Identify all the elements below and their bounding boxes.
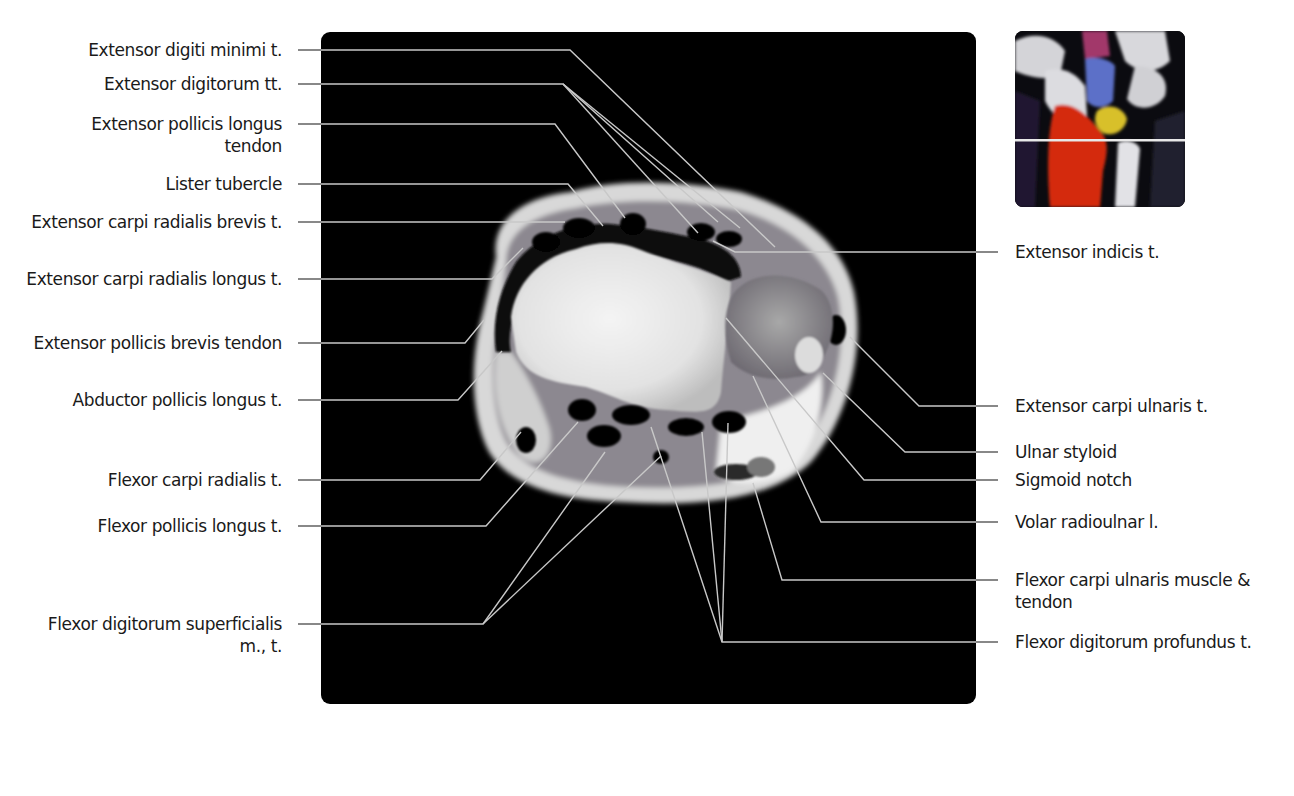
label-flexor-carpi-radialis: Flexor carpi radialis t. bbox=[108, 469, 282, 491]
label-flexor-pollicis-longus: Flexor pollicis longus t. bbox=[98, 515, 282, 537]
label-extensor-carpi-ulnaris: Extensor carpi ulnaris t. bbox=[1015, 395, 1208, 417]
slice-level-line bbox=[1015, 139, 1185, 142]
label-extensor-carpi-radialis-brevis: Extensor carpi radialis brevis t. bbox=[31, 211, 282, 233]
label-sigmoid-notch: Sigmoid notch bbox=[1015, 469, 1132, 491]
label-line-1: Extensor pollicis longus bbox=[91, 113, 282, 135]
label-line-1: Flexor digitorum superficialis bbox=[48, 613, 282, 635]
label-flexor-digitorum-superficialis: Flexor digitorum superficialis m., t. bbox=[48, 613, 282, 657]
label-extensor-indicis: Extensor indicis t. bbox=[1015, 241, 1159, 263]
label-abductor-pollicis-longus: Abductor pollicis longus t. bbox=[73, 389, 282, 411]
label-volar-radioulnar-ligament: Volar radioulnar l. bbox=[1015, 511, 1158, 533]
label-extensor-digitorum: Extensor digitorum tt. bbox=[104, 73, 282, 95]
label-flexor-digitorum-profundus: Flexor digitorum profundus t. bbox=[1015, 631, 1251, 653]
mri-image-panel bbox=[321, 32, 976, 704]
label-line-2: tendon bbox=[91, 135, 282, 157]
axial-wrist-mri bbox=[321, 32, 976, 704]
label-flexor-carpi-ulnaris: Flexor carpi ulnaris muscle & tendon bbox=[1015, 569, 1250, 613]
label-extensor-pollicis-longus: Extensor pollicis longus tendon bbox=[91, 113, 282, 157]
label-extensor-pollicis-brevis: Extensor pollicis brevis tendon bbox=[34, 332, 282, 354]
label-ulnar-styloid: Ulnar styloid bbox=[1015, 441, 1117, 463]
label-line-2: tendon bbox=[1015, 591, 1250, 613]
label-lister-tubercle: Lister tubercle bbox=[166, 173, 282, 195]
wrist-radiograph-thumbnail bbox=[1015, 31, 1185, 207]
label-line-1: Flexor carpi ulnaris muscle & bbox=[1015, 569, 1250, 591]
label-extensor-carpi-radialis-longus: Extensor carpi radialis longus t. bbox=[26, 268, 282, 290]
label-line-2: m., t. bbox=[48, 635, 282, 657]
locator-inset bbox=[1015, 31, 1185, 207]
label-extensor-digiti-minimi: Extensor digiti minimi t. bbox=[88, 39, 282, 61]
